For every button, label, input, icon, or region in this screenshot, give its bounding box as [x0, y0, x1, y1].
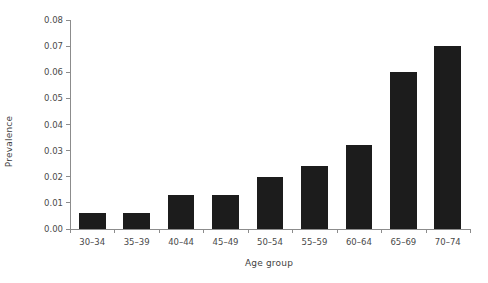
- y-axis-title: Prevalence: [0, 0, 18, 283]
- y-axis-tick-mark: [66, 20, 70, 21]
- x-axis-tick-label: 60–64: [337, 236, 381, 248]
- x-axis-tick-mark: [337, 229, 338, 233]
- y-axis-tick-label: 0.05: [44, 92, 63, 104]
- y-axis-tick-mark: [66, 150, 70, 151]
- x-axis-tick-label: 50–54: [248, 236, 292, 248]
- y-axis-tick-mark: [66, 98, 70, 99]
- y-axis-tick-mark: [66, 176, 70, 177]
- x-axis-tick-label: 65–69: [381, 236, 425, 248]
- y-axis-tick-label: 0.01: [44, 197, 63, 209]
- x-axis-tick-mark: [114, 229, 115, 233]
- bar: [123, 213, 150, 229]
- y-axis-tick-label: 0.08: [44, 14, 63, 26]
- y-axis-tick-label: 0.04: [44, 119, 63, 131]
- x-axis-tick-mark: [70, 229, 71, 233]
- y-axis-tick-label: 0.06: [44, 66, 63, 78]
- y-axis-tick-mark: [66, 72, 70, 73]
- x-axis-tick-mark: [470, 229, 471, 233]
- y-axis-tick-mark: [66, 202, 70, 203]
- bar: [346, 145, 373, 229]
- x-axis-tick-mark: [159, 229, 160, 233]
- y-axis-tick-label: 0.00: [44, 223, 63, 235]
- bar: [79, 213, 106, 229]
- x-axis-tick-label: 70–74: [426, 236, 470, 248]
- y-axis-tick-label: 0.02: [44, 171, 63, 183]
- bar-chart-figure: Prevalence 0.000.010.020.030.040.050.060…: [0, 0, 488, 283]
- x-axis-tick-mark: [381, 229, 382, 233]
- x-axis-tick-label: 35–39: [114, 236, 158, 248]
- x-axis-tick-label: 55–59: [292, 236, 336, 248]
- x-axis-title: Age group: [68, 258, 470, 268]
- bar: [257, 177, 284, 229]
- x-axis-tick-mark: [203, 229, 204, 233]
- bar: [390, 72, 417, 229]
- bar: [212, 195, 239, 229]
- x-axis-tick-mark: [248, 229, 249, 233]
- bar: [301, 166, 328, 229]
- x-axis-tick-label: 30–34: [70, 236, 114, 248]
- y-axis-tick-label: 0.03: [44, 145, 63, 157]
- x-axis-tick-mark: [292, 229, 293, 233]
- bar: [168, 195, 195, 229]
- y-axis-tick-mark: [66, 46, 70, 47]
- plot-area: 0.000.010.020.030.040.050.060.070.0830–3…: [70, 20, 470, 229]
- bar: [434, 46, 461, 229]
- x-axis-line: [70, 229, 471, 230]
- y-axis-tick-label: 0.07: [44, 40, 63, 52]
- x-axis-tick-label: 40–44: [159, 236, 203, 248]
- x-axis-tick-mark: [426, 229, 427, 233]
- x-axis-tick-label: 45–49: [203, 236, 247, 248]
- y-axis-tick-mark: [66, 124, 70, 125]
